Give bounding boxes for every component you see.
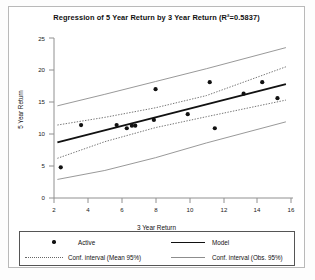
x-tick-label-8: 8 [154,206,158,213]
y-tick-label-15: 15 [38,98,45,105]
chart-screenshot: Regression of 5 Year Return by 3 Year Re… [0,0,315,280]
data-point [79,123,83,127]
x-tick-label-6: 6 [120,206,124,213]
legend-row-bottom: Conf. interval (Mean 95%) Conf. interval… [20,249,296,265]
legend-row-top: Active Model [20,234,296,250]
legend-entry-model: Model [166,234,229,250]
x-axis-ticks: 2 4 6 8 10 12 14 16 [52,198,295,213]
chart-title: Regression of 5 Year Return by 3 Year Re… [10,13,303,22]
x-tick-label-10: 10 [187,206,194,213]
x-tick-label-12: 12 [221,206,228,213]
x-tick-label-16: 16 [288,206,295,213]
data-point [213,126,217,130]
solid-line-icon [166,236,210,248]
legend-label-ci-obs: Conf. interval (Obs. 95%) [210,254,283,261]
plot-area: 0 5 10 15 20 25 2 4 [10,28,303,216]
legend-entry-active: Active [32,234,95,250]
data-point [260,80,264,84]
data-point [115,123,119,127]
data-point [208,80,212,84]
y-tick-label-5: 5 [42,162,46,169]
legend-label-ci-mean: Conf. interval (Mean 95%) [66,254,141,261]
plot-svg: 0 5 10 15 20 25 2 4 [10,28,303,216]
y-tick-label-20: 20 [38,66,45,73]
data-point [133,124,137,128]
regression-chart: Regression of 5 Year Return by 3 Year Re… [10,8,303,220]
legend-label-model: Model [210,239,229,246]
data-point [153,87,157,91]
y-axis-ticks: 0 5 10 15 20 25 [38,35,54,201]
dotted-line-icon [22,251,66,263]
legend-label-active: Active [76,239,95,246]
data-point [242,92,246,96]
y-tick-label-10: 10 [38,130,45,137]
y-tick-label-0: 0 [42,194,46,201]
data-point [152,118,156,122]
x-tick-label-4: 4 [86,206,90,213]
dot-marker-icon [32,236,76,248]
legend-entry-ci-mean: Conf. interval (Mean 95%) [22,249,141,265]
x-tick-label-2: 2 [52,206,56,213]
dashed-line-icon [166,251,210,263]
x-axis-label: 3 Year Return [10,224,303,231]
data-point [275,96,279,100]
legend-entry-ci-obs: Conf. interval (Obs. 95%) [166,249,283,265]
y-tick-label-25: 25 [38,35,45,42]
axes [54,38,293,198]
legend: Active Model Conf. interval (Mean 95%) C… [19,231,295,266]
data-point [186,112,190,116]
data-point [125,126,129,130]
x-tick-label-14: 14 [254,206,261,213]
model-regression-line [57,84,286,142]
y-axis-label: 5 Year Return [17,78,24,142]
data-point [59,165,63,169]
